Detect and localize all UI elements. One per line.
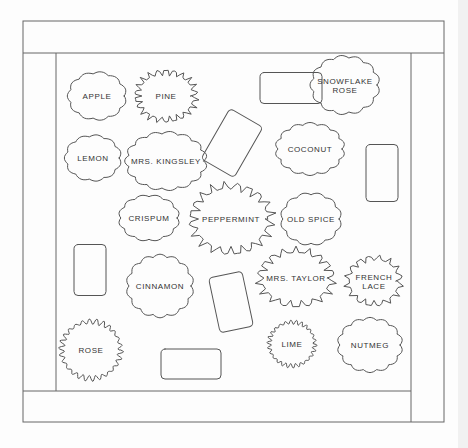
plant-label: FRENCH <box>356 273 393 282</box>
plant-lemon: LEMON <box>64 135 120 181</box>
herb-plants: APPLEPINESNOWFLAKEROSELEMONMRS. KINGSLEY… <box>59 56 404 382</box>
plant-label: CRISPUM <box>128 214 169 223</box>
plant-rose: ROSE <box>59 319 124 381</box>
plant-nutmeg: NUTMEG <box>338 317 402 372</box>
plant-coconut: COCONUT <box>276 123 345 176</box>
plant-mrs-kingsley: MRS. KINGSLEY <box>125 132 207 191</box>
stepping-stone <box>161 349 221 379</box>
plant-pine: PINE <box>135 70 199 122</box>
stepping-stone <box>209 271 254 333</box>
plant-old-spice: OLD SPICE <box>281 193 341 245</box>
stepping-stone <box>74 245 106 296</box>
plant-label: ROSE <box>78 346 103 355</box>
stepping-stones <box>74 73 398 380</box>
plant-label: PINE <box>155 92 176 101</box>
plant-label: SNOWFLAKE <box>317 77 373 86</box>
plant-label: LIME <box>281 340 302 349</box>
plant-label: COCONUT <box>288 145 333 154</box>
plant-cinnamon: CINNAMON <box>127 254 193 318</box>
plant-snowflake-rose: SNOWFLAKEROSE <box>310 56 379 115</box>
stepping-stone <box>201 108 263 177</box>
plant-lime: LIME <box>267 320 317 368</box>
stepping-stone <box>366 145 398 202</box>
plant-label: CINNAMON <box>136 282 184 291</box>
garden-plan-diagram: APPLEPINESNOWFLAKEROSELEMONMRS. KINGSLEY… <box>0 0 468 448</box>
plant-apple: APPLE <box>67 72 126 120</box>
plant-label: MRS. KINGSLEY <box>131 157 201 166</box>
plant-label: MRS. TAYLOR <box>266 274 326 283</box>
stepping-stone <box>260 73 322 104</box>
plant-peppermint: PEPPERMINT <box>189 181 276 254</box>
plant-label: ROSE <box>332 86 357 95</box>
plant-label: APPLE <box>83 92 112 101</box>
plant-label: LACE <box>362 282 385 291</box>
plant-label: PEPPERMINT <box>202 215 260 224</box>
plant-crispum: CRISPUM <box>119 195 179 240</box>
plant-mrs-taylor: MRS. TAYLOR <box>255 246 336 307</box>
plant-label: LEMON <box>77 154 108 163</box>
plant-label: OLD SPICE <box>287 215 335 224</box>
plant-label: NUTMEG <box>351 341 389 350</box>
plant-french-lace: FRENCHLACE <box>344 255 404 306</box>
